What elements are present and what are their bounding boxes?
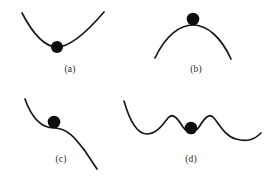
ball-c [48, 116, 61, 129]
panel-label-b: (b) [190, 64, 202, 74]
panel-b [155, 13, 231, 59]
ball-b [187, 13, 200, 26]
panel-label-c: (c) [55, 154, 66, 164]
panel-a [22, 12, 104, 53]
curve-b-hill [155, 25, 231, 59]
panel-label-d: (d) [185, 154, 197, 164]
curve-d-double-well [124, 101, 261, 140]
figure-canvas [0, 0, 269, 181]
ball-d [185, 122, 198, 135]
panel-d [124, 101, 261, 140]
equilibrium-stability-figure: (a) (b) (c) (d) [0, 0, 269, 181]
ball-a [51, 41, 63, 53]
panel-label-a: (a) [64, 64, 75, 74]
curve-a-valley [22, 12, 104, 47]
